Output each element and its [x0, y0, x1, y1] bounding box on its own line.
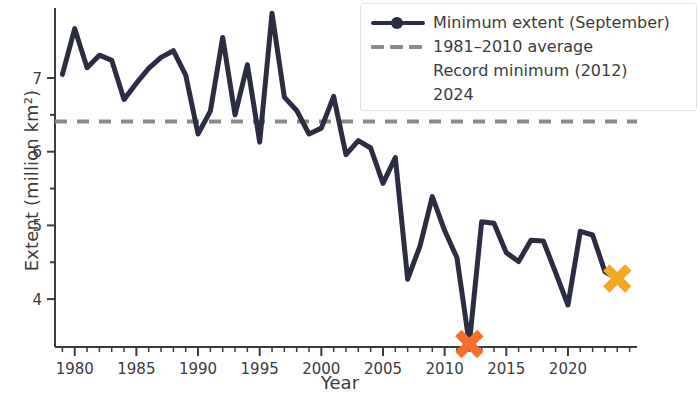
- legend-label-2024: 2024: [433, 84, 474, 106]
- legend-key-record-minimum-x-icon: [369, 60, 427, 82]
- legend-key-dashed-line-icon: [369, 36, 427, 58]
- highlight-x-marker: [606, 267, 628, 289]
- legend-entry-average: 1981–2010 average: [369, 35, 688, 59]
- arctic-sea-ice-extent-chart: 4567 19801985199019952000200520102015202…: [0, 0, 700, 401]
- legend-key-line-marker-icon: [369, 12, 427, 34]
- legend-label-record-minimum: Record minimum (2012): [433, 60, 628, 82]
- y-axis-label: Extent (million km²): [21, 66, 42, 296]
- x-axis-label: Year: [60, 372, 620, 393]
- legend-key-2024-x-icon: [369, 84, 427, 106]
- chart-legend: Minimum extent (September) 1981–2010 ave…: [360, 3, 697, 111]
- highlight-marker-group: [458, 267, 628, 355]
- legend-entry-2024: 2024: [369, 83, 688, 107]
- y-axis-label-text: Extent (million km²): [21, 90, 42, 271]
- legend-entry-record-minimum: Record minimum (2012): [369, 59, 688, 83]
- legend-label-average: 1981–2010 average: [433, 36, 593, 58]
- legend-entry-minimum-extent: Minimum extent (September): [369, 11, 688, 35]
- legend-label-minimum-extent: Minimum extent (September): [433, 12, 670, 34]
- x-axis-label-text: Year: [321, 372, 360, 393]
